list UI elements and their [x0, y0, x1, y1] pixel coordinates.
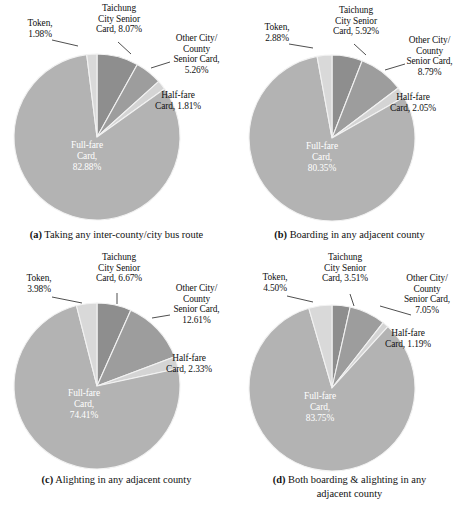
- callout-othercity-c-line1: Other City/: [160, 283, 233, 294]
- inner-label-fullfare-d-line1: Full-fare: [285, 391, 355, 402]
- leader-taichung-a: [118, 42, 131, 54]
- leader-taichung-b: [354, 44, 366, 55]
- caption-c-tag: (c): [42, 474, 54, 485]
- leader-token-d: [287, 296, 313, 302]
- callout-taichung-c-line2: City Senior: [80, 263, 158, 274]
- caption-d-tag: (d): [273, 474, 286, 485]
- inner-label-fullfare-c-line1: Full-fare: [49, 388, 119, 399]
- callout-token-a: Token, 1.98%: [9, 18, 71, 39]
- callout-halffare-b-line2: Card, 2.05%: [376, 103, 450, 114]
- callout-halffare-d-line1: Half-fare: [371, 328, 445, 339]
- callout-othercity-c-line3: Senior Card,: [160, 304, 233, 315]
- leader-token-b: [289, 44, 313, 48]
- callout-othercity-d-line1: Other City/: [388, 273, 466, 284]
- callout-othercity-b: Other City/ County Senior Card, 8.79%: [393, 35, 466, 77]
- callout-token-c-line2: 3.98%: [8, 284, 70, 295]
- caption-a-text: Taking any inter-county/city bus route: [44, 229, 203, 240]
- inner-label-fullfare-c-line2: Card,: [49, 399, 119, 410]
- callout-othercity-a: Other City/ County Senior Card, 5.26%: [160, 33, 233, 75]
- inner-label-fullfare-a-line2: Card,: [52, 151, 122, 162]
- callout-token-a-line2: 1.98%: [9, 29, 71, 40]
- callout-othercity-d-line4: 7.05%: [388, 305, 466, 316]
- callout-taichung-b-line3: Card, 5.92%: [317, 26, 395, 37]
- callout-othercity-a-line1: Other City/: [160, 33, 233, 44]
- callout-halffare-c: Half-fare Card, 2.33%: [152, 353, 226, 374]
- inner-label-fullfare-c-line3: 74.41%: [49, 410, 119, 421]
- callout-taichung-b: Taichung City Senior Card, 5.92%: [317, 5, 395, 37]
- caption-c: (c) Alighting in any adjacent county: [0, 473, 233, 486]
- callout-taichung-d-line2: City Senior: [305, 263, 385, 274]
- callout-token-b-line1: Token,: [246, 22, 308, 33]
- inner-label-fullfare-d-line2: Card,: [285, 402, 355, 413]
- caption-c-text: Alighting in any adjacent county: [55, 474, 191, 485]
- callout-halffare-b: Half-fare Card, 2.05%: [376, 92, 450, 113]
- callout-othercity-b-line4: 8.79%: [393, 67, 466, 78]
- callout-token-d-line2: 4.50%: [244, 283, 306, 294]
- caption-b-tag: (b): [274, 229, 287, 240]
- caption-d-text2: adjacent county: [233, 487, 466, 501]
- caption-b-text: Boarding in any adjacent county: [290, 229, 425, 240]
- callout-halffare-c-line1: Half-fare: [152, 353, 226, 364]
- caption-d-text: Both boarding & alighting in any: [288, 474, 426, 485]
- callout-token-c: Token, 3.98%: [8, 273, 70, 294]
- callout-taichung-a-line3: Card, 8.07%: [80, 24, 158, 35]
- callout-taichung-b-line1: Taichung: [317, 5, 395, 16]
- inner-label-fullfare-d-line3: 83.75%: [285, 413, 355, 424]
- panel-d: Token, 4.50% Taichung City Senior Card, …: [233, 258, 466, 518]
- callout-halffare-a: Half-fare Card, 1.81%: [142, 90, 214, 111]
- callout-taichung-b-line2: City Senior: [317, 16, 395, 27]
- panel-a: Token, 1.98% Taichung City Senior Card, …: [0, 0, 233, 260]
- callout-taichung-d: Taichung City Senior Card, 3.51%: [305, 252, 385, 284]
- inner-label-fullfare-c: Full-fare Card, 74.41%: [49, 388, 119, 421]
- inner-label-fullfare-b-line1: Full-fare: [287, 141, 357, 152]
- callout-taichung-c-line3: Card, 6.67%: [80, 273, 158, 284]
- callout-token-b-line2: 2.88%: [246, 33, 308, 44]
- callout-taichung-d-line3: Card, 3.51%: [305, 273, 385, 284]
- leader-taichung-d: [350, 294, 354, 306]
- callout-token-d-line1: Token,: [244, 272, 306, 283]
- caption-a-tag: (a): [30, 229, 42, 240]
- caption-b: (b) Boarding in any adjacent county: [233, 228, 466, 241]
- callout-token-a-line1: Token,: [9, 18, 71, 29]
- callout-halffare-b-line1: Half-fare: [376, 92, 450, 103]
- leader-token-c: [52, 297, 82, 303]
- callout-othercity-a-line3: Senior Card,: [160, 54, 233, 65]
- callout-othercity-b-line2: County: [393, 46, 466, 57]
- callout-othercity-a-line2: County: [160, 44, 233, 55]
- leader-token-a: [52, 40, 78, 46]
- callout-token-b: Token, 2.88%: [246, 22, 308, 43]
- figure-pie-chart-grid: Token, 1.98% Taichung City Senior Card, …: [0, 0, 466, 520]
- callout-othercity-b-line3: Senior Card,: [393, 56, 466, 67]
- panel-b: Token, 2.88% Taichung City Senior Card, …: [233, 0, 466, 260]
- inner-label-fullfare-d: Full-fare Card, 83.75%: [285, 391, 355, 424]
- callout-othercity-b-line1: Other City/: [393, 35, 466, 46]
- callout-taichung-c-line1: Taichung: [80, 252, 158, 263]
- callout-othercity-c-line2: County: [160, 294, 233, 305]
- callout-othercity-d-line3: Senior Card,: [388, 294, 466, 305]
- inner-label-fullfare-a: Full-fare Card, 82.88%: [52, 140, 122, 173]
- callout-halffare-c-line2: Card, 2.33%: [152, 364, 226, 375]
- callout-halffare-d-line2: Card, 1.19%: [371, 339, 445, 350]
- callout-othercity-d-line2: County: [388, 284, 466, 295]
- callout-halffare-a-line1: Half-fare: [142, 90, 214, 101]
- inner-label-fullfare-a-line1: Full-fare: [52, 140, 122, 151]
- callout-othercity-c-line4: 12.61%: [160, 315, 233, 326]
- panel-c: Token, 3.98% Taichung City Senior Card, …: [0, 258, 233, 518]
- inner-label-fullfare-b-line3: 80.35%: [287, 163, 357, 174]
- callout-taichung-c: Taichung City Senior Card, 6.67%: [80, 252, 158, 284]
- callout-taichung-d-line1: Taichung: [305, 252, 385, 263]
- callout-token-d: Token, 4.50%: [244, 272, 306, 293]
- callout-taichung-a-line2: City Senior: [80, 14, 158, 25]
- inner-label-fullfare-b: Full-fare Card, 80.35%: [287, 141, 357, 174]
- inner-label-fullfare-a-line3: 82.88%: [52, 162, 122, 173]
- callout-othercity-a-line4: 5.26%: [160, 65, 233, 76]
- inner-label-fullfare-b-line2: Card,: [287, 152, 357, 163]
- caption-a: (a) Taking any inter-county/city bus rou…: [0, 228, 233, 241]
- callout-halffare-d: Half-fare Card, 1.19%: [371, 328, 445, 349]
- callout-token-c-line1: Token,: [8, 273, 70, 284]
- callout-othercity-d: Other City/ County Senior Card, 7.05%: [388, 273, 466, 315]
- callout-taichung-a: Taichung City Senior Card, 8.07%: [80, 3, 158, 35]
- callout-othercity-c: Other City/ County Senior Card, 12.61%: [160, 283, 233, 325]
- caption-d: (d) Both boarding & alighting in any adj…: [233, 473, 466, 500]
- callout-taichung-a-line1: Taichung: [80, 3, 158, 14]
